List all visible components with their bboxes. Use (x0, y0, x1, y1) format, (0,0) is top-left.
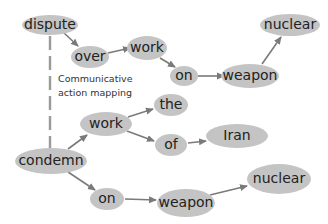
edge-weapon-nuclear (262, 37, 281, 64)
mapping-label-line2: action mapping (58, 87, 132, 98)
node-label: condemn (18, 152, 83, 168)
node-label: work (89, 115, 124, 131)
dependency-mapping-diagram: Communicative action mapping dispute ove… (0, 0, 328, 224)
edge-work-on (160, 58, 175, 67)
node-label: dispute (24, 16, 76, 32)
edge-condemn-on (68, 172, 95, 190)
node-on-bottom: on (90, 188, 124, 210)
edge-work-of (127, 131, 154, 141)
edge-condemn-work (68, 135, 87, 149)
edge-work-the (128, 109, 153, 117)
node-dispute: dispute (22, 15, 78, 35)
node-label: on (98, 190, 115, 206)
node-label: Iran (223, 127, 250, 143)
node-of: of (155, 134, 187, 156)
mapping-label-line1: Communicative (58, 73, 133, 84)
node-on-top: on (170, 66, 198, 86)
node-label: nuclear (264, 16, 317, 32)
node-over: over (71, 46, 109, 68)
node-nuclear-top: nuclear (260, 14, 320, 36)
node-label: weapon (159, 194, 214, 210)
node-weapon-top: weapon (221, 64, 279, 88)
edge-over-work (108, 48, 130, 53)
node-label: weapon (223, 67, 278, 83)
node-label: on (175, 67, 192, 83)
node-label: over (74, 48, 105, 64)
node-label: work (130, 39, 165, 55)
node-work-top: work (127, 36, 167, 60)
edge-on-weapon-bottom (125, 199, 156, 200)
node-condemn: condemn (15, 148, 87, 174)
node-label: of (164, 136, 179, 152)
node-label: the (160, 96, 183, 112)
node-the: the (154, 94, 188, 116)
node-nuclear-bottom: nuclear (247, 164, 311, 194)
node-label: nuclear (253, 170, 306, 186)
node-work-bottom: work (80, 112, 132, 136)
edge-dispute-over (64, 33, 78, 46)
edge-weapon-nuclear-bottom (210, 186, 247, 195)
node-weapon-bottom: weapon (157, 189, 215, 217)
edge-of-iran (188, 141, 206, 143)
node-iran: Iran (206, 124, 268, 148)
